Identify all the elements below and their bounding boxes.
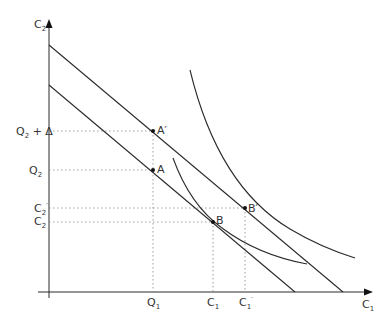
point-a-prime — [151, 129, 155, 133]
label-a: A — [157, 163, 165, 176]
point-b-prime — [243, 206, 247, 210]
y-tick-q2: Q2 — [29, 164, 42, 179]
x-axis-title: C1 — [362, 298, 374, 313]
point-b — [211, 220, 215, 224]
y-tick-q2-delta: Q2 + Δ — [16, 125, 53, 140]
y-tick-c2: C2 — [34, 215, 46, 230]
label-a-prime: A′ — [157, 124, 168, 137]
intertemporal-choice-diagram: A′ A B B′ C2 C1 Q2 + Δ Q2 C2′ C2 Q1 C1 C… — [0, 0, 389, 322]
point-a — [151, 168, 155, 172]
label-b: B — [216, 214, 224, 227]
diagram: A′ A B B′ C2 C1 Q2 + Δ Q2 C2′ C2 Q1 C1 C… — [0, 0, 389, 322]
x-tick-c1-prime: C1′ — [239, 296, 253, 311]
budget-line-inner — [49, 85, 295, 292]
indifference-curve-outer — [190, 70, 355, 258]
y-axis-arrow-icon — [46, 19, 53, 28]
x-tick-q1: Q1 — [147, 296, 160, 311]
indifference-curve-inner — [173, 158, 307, 264]
x-axis-arrow-icon — [364, 289, 373, 296]
label-b-prime: B′ — [248, 202, 259, 215]
x-tick-c1: C1 — [207, 296, 219, 311]
y-axis-title: C2 — [34, 18, 46, 33]
budget-line-outer — [49, 45, 343, 292]
